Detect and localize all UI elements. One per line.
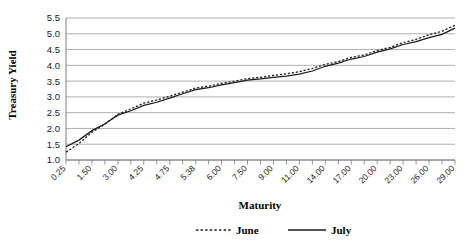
y-tick-label: 3.0 — [47, 91, 60, 102]
chart-background — [0, 0, 470, 245]
y-tick-label: 1.5 — [47, 139, 60, 150]
legend-label-june: June — [236, 224, 259, 236]
y-tick-label: 2.0 — [47, 123, 60, 134]
legend-label-july: July — [331, 224, 352, 236]
y-axis-title: Treasury Yield — [6, 50, 18, 119]
y-tick-label: 5.5 — [47, 12, 60, 23]
treasury-yield-chart: 1.01.52.02.53.03.54.04.55.05.5 0.251.503… — [0, 0, 470, 245]
y-tick-label: 4.0 — [47, 60, 60, 71]
chart-canvas: 1.01.52.02.53.03.54.04.55.05.5 0.251.503… — [0, 0, 470, 245]
y-tick-label: 1.0 — [47, 154, 60, 165]
y-tick-label: 5.0 — [47, 28, 60, 39]
y-tick-label: 3.5 — [47, 76, 60, 87]
y-tick-label: 2.5 — [47, 107, 60, 118]
y-tick-label: 4.5 — [47, 44, 60, 55]
x-axis-title: Maturity — [239, 199, 282, 211]
